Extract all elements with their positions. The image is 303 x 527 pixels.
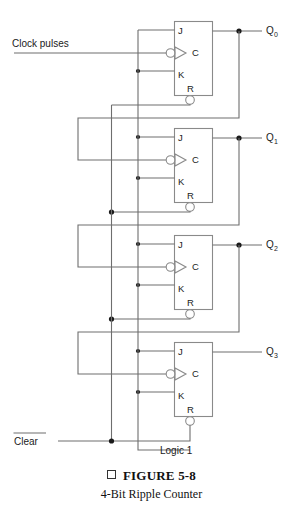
output-q2-subscript: 2 — [274, 245, 278, 252]
figure-caption-subtitle: 4-Bit Ripple Counter — [0, 487, 303, 502]
flipflop-1-clock-bubble — [166, 156, 175, 165]
q1-to-ff2-clock-wire — [78, 138, 239, 267]
flipflop-0-pin-c: C — [192, 47, 199, 58]
output-q3-base: Q — [266, 346, 274, 357]
flipflop-1-reset-bubble — [186, 203, 195, 212]
junction-dot — [109, 438, 114, 443]
flipflop-1-pin-k: K — [178, 176, 185, 187]
flipflop-3-wires — [112, 349, 263, 441]
flipflop-0-pin-r: R — [187, 83, 194, 94]
square-bullet-icon — [107, 470, 116, 479]
output-q0-subscript: 0 — [274, 31, 278, 38]
flipflop-1-clock-triangle — [175, 154, 186, 166]
flipflop-2-clock-triangle — [175, 261, 186, 273]
flipflop-2-pin-c: C — [192, 261, 199, 272]
q2-to-ff3-clock-wire — [78, 245, 239, 374]
flipflop-0: J C K R — [166, 22, 212, 105]
output-q2-label: Q 2 — [266, 239, 278, 252]
logic1-label: Logic 1 — [160, 445, 193, 456]
figure-caption: FIGURE 5-8 4-Bit Ripple Counter — [0, 468, 303, 502]
flipflop-1-pin-c: C — [192, 154, 199, 165]
clear-label-group: Clear — [14, 433, 47, 447]
flipflop-3-pin-j: J — [178, 346, 183, 357]
flipflop-0-pin-j: J — [178, 25, 183, 36]
clear-label: Clear — [14, 436, 39, 447]
flipflop-2: J C K R — [166, 236, 212, 319]
flipflop-0-reset-bubble — [186, 96, 195, 105]
output-q0-label: Q 0 — [266, 25, 278, 38]
output-q1-base: Q — [266, 132, 274, 143]
output-q2-base: Q — [266, 239, 274, 250]
output-q3-subscript: 3 — [274, 352, 278, 359]
flipflop-3-reset-bubble — [186, 417, 195, 426]
ripple-counter-figure: J C K R J C K R — [0, 0, 303, 527]
q0-to-ff1-clock-wire — [78, 31, 239, 160]
flipflop-2-clock-bubble — [166, 263, 175, 272]
output-q3-label: Q 3 — [266, 346, 278, 359]
flipflop-0-clock-bubble — [166, 49, 175, 58]
flipflop-2-pin-r: R — [187, 297, 194, 308]
flipflop-1: J C K R — [166, 129, 212, 212]
figure-caption-title-line: FIGURE 5-8 — [0, 468, 303, 484]
flipflop-3-clock-triangle — [175, 368, 186, 380]
figure-caption-title: FIGURE 5-8 — [123, 468, 196, 483]
flipflop-2-reset-bubble — [186, 310, 195, 319]
flipflop-0-clock-triangle — [175, 47, 186, 59]
flipflop-0-pin-k: K — [178, 69, 185, 80]
flipflop-3: J C K R — [166, 343, 212, 426]
flipflop-3-clock-bubble — [166, 370, 175, 379]
flipflop-2-pin-k: K — [178, 283, 185, 294]
flipflop-3-pin-c: C — [192, 368, 199, 379]
flipflop-1-pin-j: J — [178, 132, 183, 143]
clock-pulses-label: Clock pulses — [12, 38, 69, 49]
flipflop-3-pin-r: R — [187, 404, 194, 415]
flipflop-3-pin-k: K — [178, 390, 185, 401]
output-q1-label: Q 1 — [266, 132, 278, 145]
output-q1-subscript: 1 — [274, 138, 278, 145]
output-q0-base: Q — [266, 25, 274, 36]
flipflop-1-pin-r: R — [187, 190, 194, 201]
flipflop-2-pin-j: J — [178, 239, 183, 250]
logic-diagram-svg: J C K R J C K R — [0, 0, 303, 527]
